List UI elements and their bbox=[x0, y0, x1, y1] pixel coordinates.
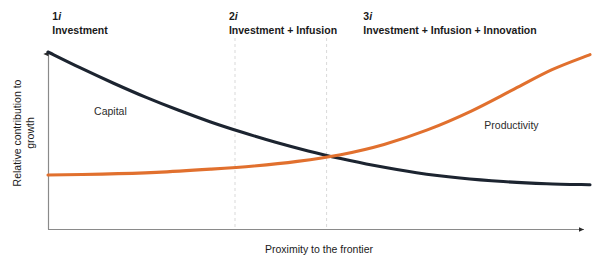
series-label-capital: Capital bbox=[94, 105, 127, 117]
series-line-productivity bbox=[48, 55, 590, 175]
chart-figure: 1i Investment 2i Investment + Infusion 3… bbox=[0, 0, 606, 267]
y-axis-title: Relative contribution to growth bbox=[11, 68, 37, 198]
series-label-productivity: Productivity bbox=[484, 119, 538, 131]
plot-area bbox=[0, 0, 606, 267]
x-axis-title: Proximity to the frontier bbox=[48, 243, 590, 255]
